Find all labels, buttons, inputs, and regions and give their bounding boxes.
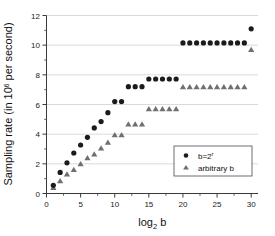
data-point-triangle (241, 84, 247, 89)
y-tick-label-2: 2 (36, 160, 41, 169)
data-point-circle (180, 40, 185, 45)
x-tick-label-15: 15 (144, 200, 153, 209)
data-point-triangle (105, 139, 111, 144)
data-point-triangle (84, 155, 90, 160)
data-point-circle (228, 40, 233, 45)
data-point-circle (221, 40, 226, 45)
data-point-circle (78, 142, 83, 147)
legend-superscript-r: r (212, 151, 214, 157)
data-point-triangle (125, 121, 131, 126)
y-axis-ticks: 024681012 (31, 12, 46, 199)
data-point-circle (105, 110, 110, 115)
data-point-circle (133, 84, 138, 89)
y-tick-label-4: 4 (36, 130, 41, 139)
x-axis-title: log2 b (138, 216, 166, 231)
y-tick-label-8: 8 (36, 71, 41, 80)
data-point-circle (242, 40, 247, 45)
data-point-triangle (139, 121, 145, 126)
data-point-circle (92, 125, 97, 130)
legend-label-arbitrary-b: arbitrary b (198, 164, 235, 173)
data-point-triangle (207, 84, 213, 89)
data-point-circle (214, 40, 219, 45)
data-point-circle (119, 99, 124, 104)
data-point-circle (201, 40, 206, 45)
x-tick-label-0: 0 (44, 200, 49, 209)
data-point-triangle (132, 121, 138, 126)
y-tick-label-6: 6 (36, 101, 41, 110)
data-point-circle (208, 40, 213, 45)
data-point-triangle (91, 151, 97, 156)
data-point-triangle (194, 84, 200, 89)
data-point-triangle (98, 145, 104, 150)
data-point-triangle (234, 84, 240, 89)
data-point-triangle (228, 84, 234, 89)
data-point-circle (71, 150, 76, 155)
data-point-circle (249, 26, 254, 31)
data-point-triangle (173, 106, 179, 111)
data-point-triangle (159, 106, 165, 111)
y-axis-title: Sampling rate (in 106 per second) (2, 22, 14, 185)
data-point-circle (112, 99, 117, 104)
y-tick-label-0: 0 (36, 190, 41, 199)
data-point-circle (160, 76, 165, 81)
gridlines (47, 16, 259, 164)
data-point-triangle (71, 167, 77, 172)
data-point-triangle (64, 171, 70, 176)
data-point-triangle (248, 47, 254, 52)
data-point-circle (85, 135, 90, 140)
data-point-circle (153, 76, 158, 81)
data-point-circle (146, 76, 151, 81)
data-point-triangle (57, 178, 63, 183)
legend-marker-circle (184, 153, 189, 158)
data-point-circle (167, 76, 172, 81)
chart-figure: 051015202530 024681012 b=2rarbitrary b l… (0, 0, 275, 236)
x-tick-label-30: 30 (247, 200, 256, 209)
data-point-triangle (214, 84, 220, 89)
data-point-triangle (153, 106, 159, 111)
data-point-triangle (166, 106, 172, 111)
y-tick-label-10: 10 (31, 41, 40, 50)
data-point-triangle (200, 84, 206, 89)
data-point-triangle (187, 84, 193, 89)
data-point-circle (58, 170, 63, 175)
x-tick-label-20: 20 (178, 200, 187, 209)
data-point-triangle (118, 132, 124, 137)
data-point-circle (51, 183, 56, 188)
x-tick-label-10: 10 (110, 200, 119, 209)
data-point-circle (187, 40, 192, 45)
x-axis-ticks: 051015202530 (44, 194, 256, 209)
data-point-circle (126, 84, 131, 89)
data-point-triangle (180, 84, 186, 89)
legend-label-b-equals-2r: b=2r (198, 151, 214, 161)
x-tick-label-5: 5 (78, 200, 83, 209)
x-tick-label-25: 25 (213, 200, 222, 209)
scatter-plot: 051015202530 024681012 b=2rarbitrary b l… (0, 0, 275, 236)
data-point-triangle (146, 106, 152, 111)
data-point-circle (174, 76, 179, 81)
data-point-circle (194, 40, 199, 45)
data-point-circle (139, 84, 144, 89)
data-point-circle (64, 160, 69, 165)
data-point-circle (235, 40, 240, 45)
data-point-triangle (221, 84, 227, 89)
data-point-circle (98, 119, 103, 124)
data-point-triangle (112, 132, 118, 137)
legend[interactable]: b=2rarbitrary b (174, 146, 252, 176)
y-tick-label-12: 12 (31, 12, 40, 21)
